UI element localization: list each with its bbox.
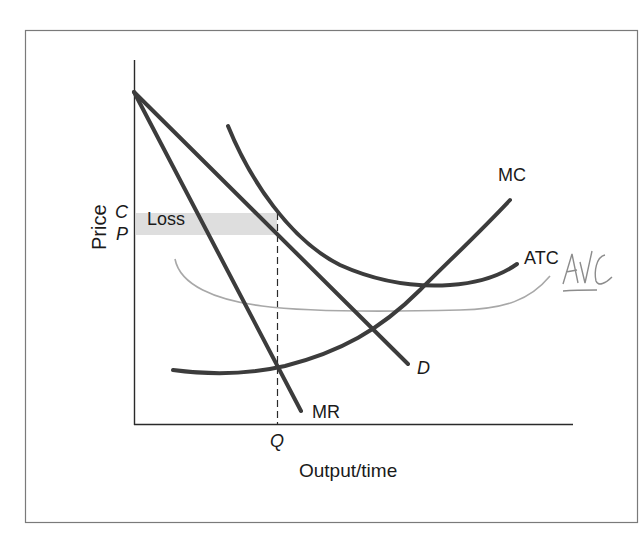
output-axis-label: Output/time — [299, 460, 397, 481]
price-axis-label: Price — [88, 204, 110, 250]
c-price-tick-label: C — [115, 202, 129, 222]
loss-label: Loss — [147, 209, 185, 229]
figure-frame — [26, 31, 638, 523]
q-quantity-tick-label: Q — [270, 431, 284, 451]
mr-label: MR — [312, 402, 340, 422]
d-label: D — [417, 358, 430, 378]
monopoly-loss-diagram: Price Output/time C P Q Loss MC ATC D MR — [0, 0, 643, 541]
p-price-tick-label: P — [116, 224, 128, 244]
atc-label: ATC — [524, 248, 559, 268]
mc-label: MC — [498, 165, 526, 185]
